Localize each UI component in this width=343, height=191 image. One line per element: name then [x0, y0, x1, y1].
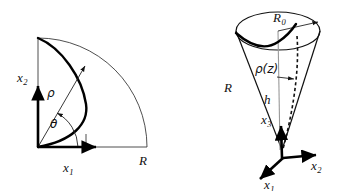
figure-root: x2 x1 ρ θ R [0, 0, 343, 191]
cone-right-edge [282, 31, 320, 150]
label-x2-3d: x2 [310, 158, 322, 175]
rho-z-arrow [277, 77, 294, 79]
label-x2: x2 [16, 70, 28, 87]
label-R-slant: R [223, 80, 232, 95]
label-x1: x1 [62, 160, 74, 177]
label-h: h [264, 92, 271, 107]
axis-x3 [281, 126, 282, 158]
inner-boundary-curve [38, 38, 86, 147]
axis-x1-3d [260, 158, 283, 179]
right-panel-group: R0 R h ρ(z) x3 x2 x1 [223, 10, 322, 191]
label-rho: ρ [47, 86, 55, 100]
cone-left-edge [236, 31, 282, 150]
cone-surface-curve-descending [282, 24, 296, 150]
diagram-canvas: x2 x1 ρ θ R [0, 0, 343, 191]
left-panel-group: x2 x1 ρ θ R [16, 38, 147, 177]
cone-height-guide [278, 31, 280, 150]
rho-vector [38, 66, 85, 147]
label-R-left: R [138, 153, 147, 168]
label-x3: x3 [260, 112, 272, 129]
label-rho-z: ρ(z) [255, 62, 278, 76]
label-x1-3d: x1 [263, 177, 275, 191]
label-theta: θ [50, 117, 58, 131]
